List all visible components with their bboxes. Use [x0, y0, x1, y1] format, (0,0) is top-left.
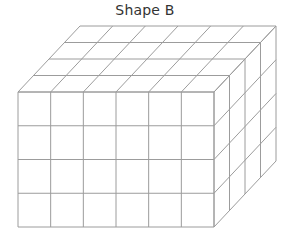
cube-prism-drawing [0, 0, 290, 241]
